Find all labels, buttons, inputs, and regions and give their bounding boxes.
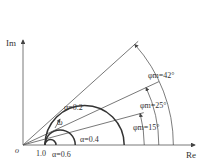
origin-label: o: [15, 146, 19, 155]
x-axis-label: Re: [186, 150, 196, 160]
angle-arc-25: [146, 88, 159, 145]
curve-label-0.6: α=0.6: [52, 150, 71, 159]
tick-label-1: 1.0: [36, 149, 46, 158]
lead-network-polar-diagram: Im Re o 1.0 φm=42°φm=25°φm=15°α=0.2α=0.4…: [0, 0, 209, 165]
curve-label-0.4: α=0.4: [80, 135, 99, 144]
angle-label-42: φm=42°: [148, 71, 175, 80]
y-axis-label: Im: [6, 38, 16, 48]
curve-alpha-0.6: [45, 140, 56, 145]
curve-label-0.2: α=0.2: [64, 103, 83, 112]
angle-label-15: φm=15°: [133, 123, 160, 132]
angle-label-25: φm=25°: [140, 101, 167, 110]
